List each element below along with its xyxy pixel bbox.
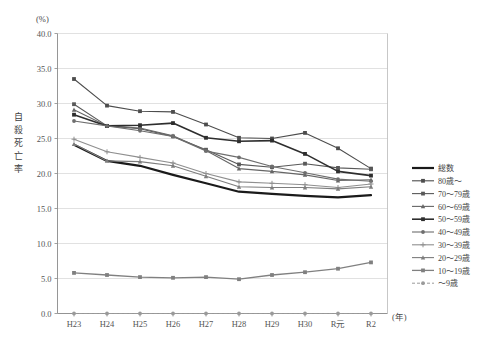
legend-label: ～9歳 — [438, 278, 458, 288]
data-point-marker — [171, 276, 175, 280]
data-point-marker — [72, 137, 77, 142]
data-point-marker — [138, 312, 142, 316]
y-tick-label: 15.0 — [37, 204, 52, 214]
y-axis-title-char: 率 — [14, 163, 23, 174]
data-point-marker — [421, 242, 426, 247]
data-point-marker — [270, 312, 274, 316]
legend-item-80歳～[interactable]: 80歳～ — [412, 176, 462, 186]
series-総数 — [74, 145, 371, 198]
y-tick-label: 5.0 — [41, 274, 52, 284]
data-point-marker — [138, 129, 142, 133]
data-point-marker — [204, 312, 208, 316]
series-line — [74, 145, 371, 198]
legend-item-10～19歳[interactable]: 10～19歳 — [412, 266, 470, 276]
legend-label: 40～49歳 — [438, 227, 470, 237]
data-point-marker — [369, 261, 373, 265]
data-point-marker — [237, 156, 241, 160]
data-point-marker — [369, 312, 373, 316]
x-tick-label: R元 — [331, 319, 346, 329]
data-point-marker — [303, 162, 307, 166]
series-10～19歳 — [72, 261, 373, 282]
data-point-marker — [303, 270, 307, 274]
series-line — [74, 79, 371, 169]
x-axis-unit-label: (年) — [392, 312, 407, 322]
y-tick-label: 30.0 — [37, 99, 52, 109]
data-point-marker — [138, 109, 142, 113]
legend-label: 20～29歳 — [438, 253, 470, 263]
data-point-marker — [421, 281, 425, 285]
data-point-marker — [171, 312, 175, 316]
data-point-marker — [270, 273, 274, 277]
data-point-marker — [138, 123, 142, 127]
y-tick-label: 0.0 — [41, 309, 52, 319]
data-point-marker — [270, 139, 274, 143]
data-point-marker — [72, 102, 76, 106]
x-tick-label: H23 — [67, 319, 82, 329]
legend-item-30～39歳[interactable]: 30～39歳 — [412, 240, 470, 250]
x-tick-label: H24 — [100, 319, 115, 329]
data-point-marker — [204, 149, 208, 153]
legend-item-～9歳[interactable]: ～9歳 — [412, 278, 458, 288]
data-point-marker — [72, 142, 76, 146]
legend-item-40～49歳[interactable]: 40～49歳 — [412, 227, 470, 237]
data-point-marker — [237, 179, 242, 184]
data-point-marker — [336, 170, 340, 174]
data-point-marker — [369, 174, 373, 178]
data-point-marker — [421, 230, 425, 234]
y-axis-title-char: 死 — [14, 138, 23, 148]
y-tick-label: 35.0 — [37, 64, 52, 74]
chart-container: 0.05.010.015.020.025.030.035.040.0 H23H2… — [0, 0, 501, 338]
legend-label: 総数 — [438, 163, 454, 173]
line-chart-svg: 0.05.010.015.020.025.030.035.040.0 H23H2… — [0, 0, 501, 338]
data-point-marker — [421, 179, 425, 183]
data-point-marker — [237, 163, 241, 167]
x-tick-label: H30 — [298, 319, 313, 329]
data-point-marker — [72, 271, 76, 275]
y-tick-label: 40.0 — [37, 29, 52, 39]
data-point-marker — [421, 217, 425, 221]
data-point-marker — [237, 277, 241, 281]
legend-label: 10～19歳 — [438, 266, 470, 276]
legend-label: 50～59歳 — [438, 214, 470, 224]
data-point-marker — [72, 77, 76, 81]
x-tick-label: H29 — [265, 319, 280, 329]
series-line — [74, 110, 371, 181]
legend-item-70～79歳[interactable]: 70～79歳 — [412, 189, 470, 199]
y-axis-title-char: 亡 — [14, 150, 23, 161]
data-point-marker — [72, 119, 76, 123]
data-point-marker — [105, 149, 110, 154]
data-point-marker — [303, 312, 307, 316]
data-point-marker — [204, 275, 208, 279]
data-point-marker — [72, 113, 76, 117]
data-point-marker — [369, 167, 373, 171]
legend-label: 30～39歳 — [438, 240, 470, 250]
data-point-marker — [171, 135, 175, 139]
y-axis-title: 自殺死亡率 — [14, 111, 23, 174]
data-point-marker — [237, 136, 241, 140]
legend-label: 60～69歳 — [438, 202, 470, 212]
gridlines-group — [58, 34, 388, 314]
data-point-marker — [105, 312, 109, 316]
data-point-marker — [270, 181, 275, 186]
data-point-marker — [237, 139, 241, 143]
x-tick-label: R2 — [366, 319, 376, 329]
x-tick-label: H26 — [166, 319, 181, 329]
legend-label: 70～79歳 — [438, 189, 470, 199]
x-tick-label: H28 — [232, 319, 247, 329]
data-point-marker — [336, 267, 340, 271]
legend-item-20～29歳[interactable]: 20～29歳 — [412, 253, 470, 263]
legend-item-50～59歳[interactable]: 50～59歳 — [412, 214, 470, 224]
data-point-marker — [237, 312, 241, 316]
data-point-marker — [204, 123, 208, 127]
x-tick-label: H25 — [133, 319, 148, 329]
y-tick-label: 10.0 — [37, 239, 52, 249]
data-point-marker — [270, 165, 274, 169]
legend-item-総数[interactable]: 総数 — [412, 163, 454, 173]
series-group — [72, 77, 374, 315]
legend-item-60～69歳[interactable]: 60～69歳 — [412, 202, 470, 212]
y-axis-title-char: 自 — [14, 111, 23, 122]
y-tick-label: 20.0 — [37, 169, 52, 179]
data-point-marker — [171, 110, 175, 114]
data-point-marker — [336, 312, 340, 316]
data-point-marker — [204, 136, 208, 140]
